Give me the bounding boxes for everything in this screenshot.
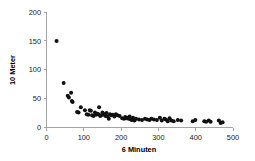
x-tick-label: 200 [115,133,127,142]
x-tick-label: 300 [152,133,164,142]
data-point [209,120,213,124]
data-point [86,113,90,117]
data-point [69,91,73,95]
x-tick-label: 400 [190,133,202,142]
y-axis-title: 10 Meter [8,55,17,85]
data-point [71,100,75,104]
data-points-layer [55,39,225,125]
x-tick-labels: 0 100 200 300 400 500 [44,133,239,142]
data-point [221,120,225,124]
y-tick-labels: 200 150 100 50 0 [29,8,41,133]
data-point [77,110,81,114]
data-point [62,81,66,85]
data-point [176,118,180,122]
data-point [179,119,183,123]
data-point [89,109,93,113]
data-point [107,117,111,121]
data-point [79,105,83,109]
y-tick-label: 100 [29,65,41,74]
data-point [67,95,71,99]
y-tick-label: 0 [37,123,41,132]
y-tick-label: 200 [29,8,41,17]
x-tick-label: 500 [227,133,239,142]
x-tick-label: 0 [44,133,48,142]
chart-canvas: 200 150 100 50 0 0 100 200 300 400 500 6… [0,0,255,161]
axes-group [47,12,234,128]
scatter-chart: 200 150 100 50 0 0 100 200 300 400 500 6… [0,0,255,161]
data-point [172,119,176,123]
y-tick-label: 150 [29,37,41,46]
data-point [55,39,59,43]
x-tick-label: 100 [78,133,90,142]
x-axis-title: 6 Minuten [122,145,157,154]
data-point [193,118,197,122]
y-tick-label: 50 [33,94,41,103]
data-point [97,105,101,109]
data-point [83,108,87,112]
